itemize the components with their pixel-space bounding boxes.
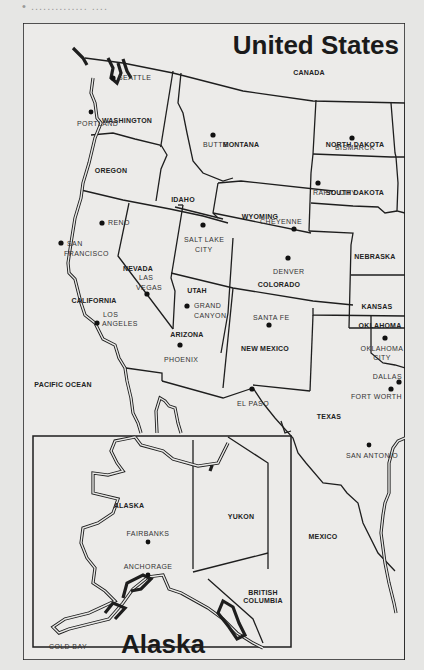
alaska-inset: ALASKA YUKON BRITISH COLUMBIA FAIRBANKS … [33,436,291,659]
page-caption: • .............. .... [22,0,108,12]
label-mexico: MEXICO [309,533,338,540]
label-oklahoma-city-2: CITY [373,354,391,361]
label-san-francisco-2: FRANCISCO [64,250,109,257]
label-nebraska: NEBRASKA [354,253,395,260]
inset-title: Alaska [121,629,205,659]
label-fort-worth: FORT WORTH [351,393,402,400]
label-oregon: OREGON [95,167,127,174]
label-santa-fe: SANTA FE [253,314,290,321]
label-los-angeles-2: ANGELES [102,320,138,327]
label-montana: MONTANA [223,141,260,148]
label-oklahoma-city-1: OKLAHOMA [361,345,404,352]
label-kansas: KANSAS [362,303,393,310]
label-utah: UTAH [187,287,207,294]
label-british-columbia-2: COLUMBIA [243,597,282,604]
label-phoenix: PHOENIX [164,356,198,363]
label-los-angeles-1: LOS [103,311,118,318]
label-portland: PORTLAND [77,120,118,127]
label-san-francisco-1: SAN [67,240,83,247]
label-cheyenne: CHEYENNE [260,218,302,225]
label-grand-canyon-1: GRAND [194,302,221,309]
label-rapid-city: RAPID CITY [313,189,356,196]
label-nevada: NEVADA [123,265,153,272]
label-san-antonio: SAN ANTONIO [346,452,398,459]
label-reno: RENO [108,219,130,226]
label-oklahoma: OKLAHOMA [359,322,402,329]
label-denver: DENVER [273,268,305,275]
label-butte: BUTTE [203,141,228,148]
label-grand-canyon-2: CANYON [194,312,226,319]
label-seattle: SEATTLE [118,74,151,81]
label-anchorage: ANCHORAGE [124,563,173,570]
label-yukon: YUKON [228,513,254,520]
label-pacific-ocean: PACIFIC OCEAN [34,381,91,388]
label-arizona: ARIZONA [170,331,203,338]
label-salt-lake-city-1: SALT LAKE [184,236,224,243]
label-alaska: ALASKA [114,502,144,509]
label-el-paso: EL PASO [237,400,269,407]
label-new-mexico: NEW MEXICO [241,345,289,352]
label-canada: CANADA [293,69,325,76]
label-cold-bay: COLD BAY [49,643,87,650]
label-salt-lake-city-2: CITY [195,246,213,253]
label-british-columbia-1: BRITISH [248,589,277,596]
label-idaho: IDAHO [171,196,195,203]
label-las-vegas-1: LAS [139,274,153,281]
label-texas: TEXAS [317,413,341,420]
us-map: United States [23,23,405,660]
label-bismarck: BISMARCK [335,144,375,151]
map-title: United States [233,30,399,60]
label-colorado: COLORADO [258,281,301,288]
label-las-vegas-2: VEGAS [136,284,162,291]
label-fairbanks: FAIRBANKS [127,530,170,537]
label-dallas: DALLAS [373,373,402,380]
label-california: CALIFORNIA [71,297,116,304]
